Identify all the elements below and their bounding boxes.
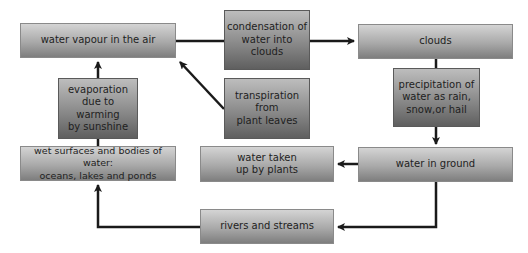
node-condensation: condensation of water into clouds: [224, 10, 310, 70]
node-water-vapour: water vapour in the air: [20, 23, 176, 58]
node-wet-surfaces: wet surfaces and bodies of water: oceans…: [20, 146, 176, 181]
node-evaporation: evaporation due to warming by sunshine: [58, 78, 138, 139]
arrow-to-rivers: [338, 182, 436, 227]
node-rivers-and-streams: rivers and streams: [200, 209, 334, 244]
node-water-taken-by-plants: water taken up by plants: [200, 146, 334, 182]
node-water-in-ground: water in ground: [358, 147, 513, 182]
node-clouds: clouds: [358, 24, 513, 59]
node-transpiration: transpiration from plant leaves: [224, 78, 310, 139]
arrow-transpiration-to-vapour: [180, 62, 224, 109]
node-precipitation: precipitation of water as rain, snow,or …: [393, 68, 480, 127]
arrow-to-wet-surfaces: [98, 185, 200, 227]
